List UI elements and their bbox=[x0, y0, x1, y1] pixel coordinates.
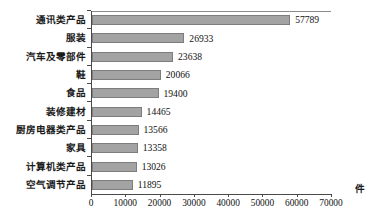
y-axis-tick bbox=[87, 83, 91, 84]
bar-value-label: 11895 bbox=[138, 180, 162, 190]
bar-row: 通讯类产品57789 bbox=[0, 11, 379, 29]
category-label: 空气调节产品 bbox=[0, 180, 86, 190]
x-axis-tick-label: 0 bbox=[89, 199, 94, 208]
bar bbox=[92, 107, 142, 117]
bar-value-label: 23638 bbox=[178, 52, 202, 62]
bar-value-label: 13358 bbox=[143, 143, 167, 153]
category-label: 通讯类产品 bbox=[0, 15, 86, 25]
bar-row: 服装26933 bbox=[0, 29, 379, 47]
y-axis-tick bbox=[87, 175, 91, 176]
x-axis-tick-label: 30000 bbox=[182, 199, 205, 208]
bar bbox=[92, 162, 137, 172]
bar bbox=[92, 125, 139, 135]
bar-row: 厨房电器类产品13566 bbox=[0, 121, 379, 139]
x-axis-tick-mark bbox=[160, 194, 161, 197]
bar-container: 23638 bbox=[92, 52, 202, 62]
bar-value-label: 19400 bbox=[164, 89, 188, 99]
bar bbox=[92, 52, 173, 62]
x-axis-unit-label: 件 bbox=[355, 184, 365, 194]
bar-value-label: 14465 bbox=[147, 107, 171, 117]
bar-row: 空气调节产品11895 bbox=[0, 176, 379, 194]
bar bbox=[92, 33, 184, 43]
bar bbox=[92, 15, 290, 25]
x-axis-tick-mark bbox=[125, 194, 126, 197]
category-label: 家具 bbox=[0, 143, 86, 153]
y-axis-tick bbox=[87, 65, 91, 66]
y-axis-tick bbox=[87, 10, 91, 11]
x-axis-tick-mark bbox=[262, 194, 263, 197]
y-axis-tick bbox=[87, 47, 91, 48]
category-label: 服装 bbox=[0, 34, 86, 44]
x-axis-tick-label: 20000 bbox=[148, 199, 171, 208]
category-label: 鞋 bbox=[0, 70, 86, 80]
x-axis-ticks: 010000200003000040000500006000070000 bbox=[0, 194, 379, 222]
bar-container: 26933 bbox=[92, 33, 213, 43]
x-axis-tick-label: 70000 bbox=[319, 199, 342, 208]
bar-value-label: 13566 bbox=[144, 125, 168, 135]
x-axis-tick-mark bbox=[228, 194, 229, 197]
category-label: 汽车及零部件 bbox=[0, 52, 86, 62]
bar bbox=[92, 88, 159, 98]
bar-row: 鞋20066 bbox=[0, 66, 379, 84]
category-label: 厨房电器类产品 bbox=[0, 125, 86, 135]
x-axis-tick-mark bbox=[297, 194, 298, 197]
bar-value-label: 26933 bbox=[189, 34, 213, 44]
x-axis-tick-label: 10000 bbox=[114, 199, 137, 208]
bar bbox=[92, 70, 161, 80]
bar-rows: 通讯类产品57789服装26933汽车及零部件23638鞋20066食品1940… bbox=[0, 11, 379, 194]
category-label: 食品 bbox=[0, 89, 86, 99]
x-axis-tick-mark bbox=[91, 194, 92, 197]
bar-value-label: 57789 bbox=[295, 15, 319, 25]
bar-container: 57789 bbox=[92, 15, 319, 25]
bar-container: 11895 bbox=[92, 180, 161, 190]
bar-container: 13358 bbox=[92, 143, 167, 153]
bar-value-label: 13026 bbox=[142, 162, 166, 172]
bar-container: 13566 bbox=[92, 125, 167, 135]
bar-container: 13026 bbox=[92, 162, 166, 172]
bar-row: 汽车及零部件23638 bbox=[0, 48, 379, 66]
y-axis-tick bbox=[87, 156, 91, 157]
y-axis-tick bbox=[87, 101, 91, 102]
x-axis-tick-label: 50000 bbox=[251, 199, 274, 208]
x-axis-tick-mark bbox=[331, 194, 332, 197]
bar-container: 19400 bbox=[92, 88, 187, 98]
bar-chart: 通讯类产品57789服装26933汽车及零部件23638鞋20066食品1940… bbox=[0, 0, 379, 224]
bar-container: 20066 bbox=[92, 70, 190, 80]
bar-row: 家具13358 bbox=[0, 139, 379, 157]
x-axis-tick-label: 40000 bbox=[216, 199, 239, 208]
bar-row: 装修建材14465 bbox=[0, 102, 379, 120]
category-label: 计算机类产品 bbox=[0, 162, 86, 172]
bar-row: 食品19400 bbox=[0, 84, 379, 102]
category-label: 装修建材 bbox=[0, 107, 86, 117]
x-axis-tick-label: 60000 bbox=[285, 199, 308, 208]
bar bbox=[92, 143, 138, 153]
y-axis-tick bbox=[87, 138, 91, 139]
y-axis-tick bbox=[87, 120, 91, 121]
bar-value-label: 20066 bbox=[166, 70, 190, 80]
bar bbox=[92, 180, 133, 190]
bar-container: 14465 bbox=[92, 107, 171, 117]
x-axis-tick-mark bbox=[194, 194, 195, 197]
bar-row: 计算机类产品13026 bbox=[0, 157, 379, 175]
y-axis-tick bbox=[87, 28, 91, 29]
